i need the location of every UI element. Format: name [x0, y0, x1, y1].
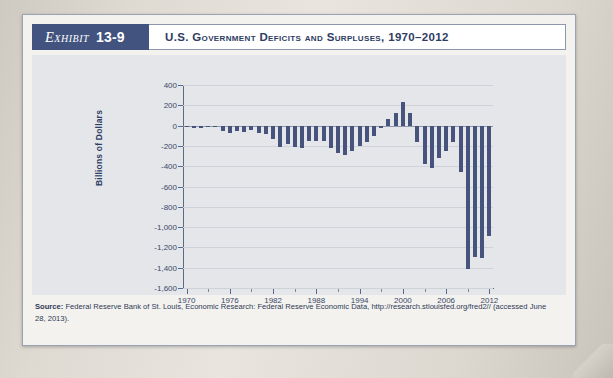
x-axis-tick-mark	[446, 289, 447, 294]
x-axis-tick-mark	[273, 289, 274, 294]
bar	[271, 126, 275, 139]
y-axis-tick-label: -200	[161, 141, 177, 150]
bar	[466, 126, 470, 269]
y-axis-tick-mark	[178, 247, 183, 248]
y-axis-tick-label: -1,000	[154, 223, 177, 232]
y-axis-tick-label: -1,400	[154, 263, 177, 272]
bar	[473, 126, 477, 257]
x-axis-minor-tick	[381, 289, 382, 292]
bar	[228, 126, 232, 134]
gridline	[183, 227, 493, 228]
x-axis-minor-tick	[425, 289, 426, 292]
y-axis-tick-mark	[178, 85, 183, 86]
bar	[242, 126, 246, 132]
y-axis-tick-label: 400	[164, 81, 177, 90]
y-axis-tick-mark	[178, 105, 183, 106]
x-axis-minor-tick	[295, 289, 296, 292]
chart-area: Billions of Dollars 4002000-200-400-600-…	[32, 55, 566, 295]
x-axis-minor-tick	[338, 289, 339, 292]
exhibit-word: Exhibit	[45, 29, 89, 46]
y-axis-tick-label: -800	[161, 202, 177, 211]
y-axis-tick-label: -1,600	[154, 284, 177, 293]
bar	[286, 126, 290, 145]
x-axis-tick-mark	[360, 289, 361, 294]
bar	[322, 126, 326, 142]
y-axis-tick-mark	[178, 268, 183, 269]
bar	[257, 126, 261, 134]
bar	[206, 126, 210, 128]
bar	[401, 102, 405, 126]
bar	[192, 126, 196, 128]
bar	[459, 126, 463, 173]
gridline	[183, 207, 493, 208]
x-axis-tick-mark	[230, 289, 231, 294]
bar	[199, 126, 203, 128]
y-axis-tick-label: -600	[161, 182, 177, 191]
bar	[358, 126, 362, 147]
gridlines	[183, 85, 493, 288]
bar	[437, 126, 441, 158]
bar	[394, 113, 398, 126]
bar	[221, 126, 225, 131]
y-axis-title: Billions of Dollars	[94, 110, 104, 186]
exhibit-header: Exhibit 13-9 U.S. Government Deficits an…	[32, 24, 566, 50]
y-axis-tick-label: -1,200	[154, 243, 177, 252]
x-axis-tick-mark	[403, 289, 404, 294]
bar	[372, 126, 376, 137]
bar	[307, 126, 311, 141]
y-axis-tick-label: 0	[173, 121, 177, 130]
bar	[293, 126, 297, 148]
exhibit-number: 13-9	[96, 29, 125, 45]
bar	[278, 126, 282, 147]
exhibit-tag: Exhibit 13-9	[32, 24, 149, 50]
bar	[365, 126, 369, 143]
bar	[329, 126, 333, 148]
x-axis-tick-mark	[316, 289, 317, 294]
gridline	[183, 85, 493, 86]
y-axis-tick-mark	[178, 166, 183, 167]
chart-canvas: Billions of Dollars 4002000-200-400-600-…	[32, 55, 566, 295]
source-text: Federal Reserve Bank of St. Louis, Econo…	[35, 302, 546, 323]
y-axis-tick-mark	[178, 288, 183, 289]
y-axis-tick-mark	[178, 207, 183, 208]
page-corner-shadow	[573, 344, 613, 378]
y-axis-tick-mark	[178, 126, 183, 127]
bar	[314, 126, 318, 142]
bar	[185, 126, 189, 127]
y-axis-tick-mark	[178, 187, 183, 188]
bar	[451, 126, 455, 142]
y-axis-tick-label: 200	[164, 101, 177, 110]
bar	[423, 126, 427, 164]
page-title: U.S. Government Deficits and Surpluses, …	[165, 31, 449, 43]
bar	[300, 126, 304, 148]
x-axis-minor-tick	[251, 289, 252, 292]
gridline	[183, 247, 493, 248]
gridline	[183, 268, 493, 269]
bar	[444, 126, 448, 151]
bar	[386, 119, 390, 126]
bar	[336, 126, 340, 153]
gridline	[183, 187, 493, 188]
plot-area	[183, 85, 493, 288]
bar	[379, 126, 383, 128]
gridline	[183, 166, 493, 167]
bar	[213, 126, 217, 127]
gridline	[183, 105, 493, 106]
bar	[408, 113, 412, 126]
source-label: Source:	[35, 302, 63, 311]
bar	[480, 126, 484, 258]
bar	[415, 126, 419, 142]
bar	[350, 126, 354, 152]
bar	[343, 126, 347, 155]
x-axis-minor-tick	[208, 289, 209, 292]
y-axis-tick-label: -400	[161, 162, 177, 171]
bar	[264, 126, 268, 134]
exhibit-panel: Exhibit 13-9 U.S. Government Deficits an…	[22, 14, 576, 346]
x-axis-tick-mark	[489, 289, 490, 294]
y-axis-tick-labels: 4002000-200-400-600-800-1,000-1,200-1,40…	[128, 85, 177, 288]
y-axis-tick-mark	[178, 146, 183, 147]
bar	[487, 126, 491, 236]
exhibit-title-container: U.S. Government Deficits and Surpluses, …	[149, 24, 566, 50]
source-note: Source: Federal Reserve Bank of St. Loui…	[35, 301, 555, 325]
screenshot-page: Exhibit 13-9 U.S. Government Deficits an…	[0, 0, 613, 378]
